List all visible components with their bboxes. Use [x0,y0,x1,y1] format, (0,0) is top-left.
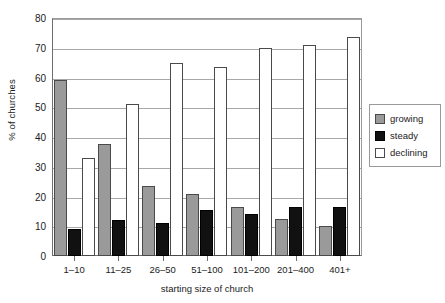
bar-steady [200,210,213,256]
legend-label-growing: growing [390,113,423,124]
x-axis-tick-mark [340,256,341,261]
chart-legend: growing steady declining [369,104,441,167]
bar-steady [112,220,125,256]
bar-steady [68,229,81,256]
bar-growing [186,194,199,256]
y-axis-tick-label: 70 [0,42,52,53]
legend-item-growing: growing [375,110,436,127]
bar-declining [347,37,360,256]
bar-group [229,18,273,256]
bar-declining [126,104,139,256]
bar-group [273,18,317,256]
legend-swatch-declining-icon [375,148,385,158]
bar-steady [289,207,302,256]
bar-group [318,18,362,256]
bar-growing [319,226,332,256]
y-axis-tick-label: 30 [0,161,52,172]
legend-item-steady: steady [375,127,436,144]
x-axis-tick-mark [118,256,119,261]
x-axis-tick-mark [74,256,75,261]
bar-growing [142,186,155,256]
y-axis-tick-label: 20 [0,191,52,202]
bar-declining [214,67,227,256]
legend-swatch-steady-icon [375,131,385,141]
bar-declining [303,45,316,256]
bar-group [52,18,96,256]
legend-swatch-growing-icon [375,114,385,124]
bar-declining [259,48,272,256]
bar-growing [98,144,111,256]
y-axis-tick-label: 80 [0,13,52,24]
bar-group [185,18,229,256]
y-axis-tick-label: 60 [0,72,52,83]
y-axis-tick-label: 0 [0,251,52,262]
bar-growing [54,80,67,256]
bar-group [141,18,185,256]
y-axis-tick-label: 40 [0,132,52,143]
bar-growing [231,207,244,256]
bar-group [96,18,140,256]
x-axis-tick-mark [251,256,252,261]
legend-item-declining: declining [375,144,436,161]
x-axis-tick-mark [296,256,297,261]
bar-steady [333,207,346,256]
bar-growing [275,219,288,256]
y-axis-tick-label: 10 [0,221,52,232]
x-axis-tick-mark [207,256,208,261]
x-axis-tick-mark [163,256,164,261]
x-axis-title: starting size of church [52,283,362,294]
bar-steady [245,214,258,256]
bar-declining [170,63,183,256]
bars-layer [52,18,362,256]
bar-steady [156,223,169,256]
bar-declining [82,158,95,256]
bar-chart: % of churches 01020304050607080 1–1011–2… [0,0,445,303]
y-axis-tick-label: 50 [0,102,52,113]
legend-label-steady: steady [390,130,418,141]
legend-label-declining: declining [390,147,428,158]
x-axis-tick-label: 401+ [312,264,368,275]
